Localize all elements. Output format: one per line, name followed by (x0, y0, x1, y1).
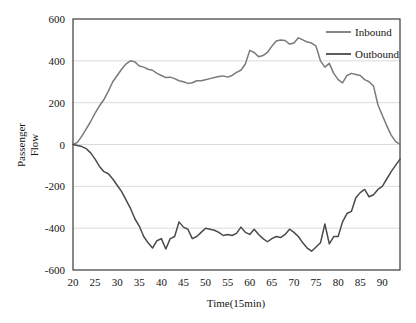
legend-label-inbound: Inbound (355, 26, 392, 38)
y-tick-label: -400 (45, 222, 66, 234)
y-tick-label: 400 (49, 55, 66, 67)
x-axis-title: Time(15min) (207, 297, 266, 310)
x-tick-label: 70 (288, 276, 300, 288)
x-axis-tick-labels: 202530354045505560657075808590 (68, 276, 389, 288)
x-tick-label: 45 (178, 276, 190, 288)
chart-figure: -600-400-2000200400600 20253035404550556… (0, 0, 416, 323)
x-tick-label: 20 (68, 276, 80, 288)
y-tick-label: 200 (49, 97, 66, 109)
y-tick-label: -600 (45, 264, 66, 276)
y-tick-label: 0 (60, 139, 66, 151)
legend-label-outbound: Outbound (355, 48, 400, 60)
x-tick-label: 55 (222, 276, 234, 288)
x-tick-label: 65 (266, 276, 278, 288)
y-axis-tick-labels: -600-400-2000200400600 (45, 13, 66, 276)
y-tick-label: -200 (45, 180, 66, 192)
y-axis-title: Passenger Flow (15, 123, 40, 167)
x-tick-label: 75 (311, 276, 323, 288)
x-tick-label: 60 (244, 276, 256, 288)
x-tick-label: 40 (156, 276, 168, 288)
passenger-flow-line-chart: -600-400-2000200400600 20253035404550556… (0, 0, 416, 323)
y-axis-title-line1: Passenger (15, 123, 27, 167)
x-tick-label: 25 (90, 276, 102, 288)
x-tick-label: 50 (200, 276, 212, 288)
x-tick-label: 90 (377, 276, 389, 288)
x-tick-label: 85 (355, 276, 367, 288)
y-tick-label: 600 (49, 13, 66, 25)
y-axis-title-line2: Flow (28, 134, 40, 157)
x-tick-label: 35 (134, 276, 146, 288)
x-tick-label: 30 (112, 276, 124, 288)
x-tick-label: 80 (333, 276, 345, 288)
